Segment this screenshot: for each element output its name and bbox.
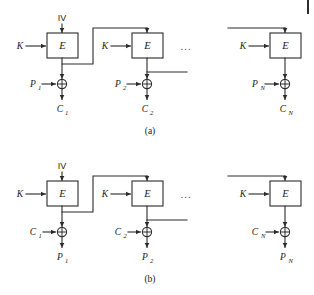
output-label-b2: P xyxy=(141,252,148,262)
panel-a-caption: (a) xyxy=(145,126,156,137)
input-label-an: P xyxy=(251,79,258,89)
ellipsis-b: ... xyxy=(180,188,191,200)
iv-label-b: IV xyxy=(58,161,67,171)
input-subscript-bn: N xyxy=(260,232,266,239)
key-label-a1: K xyxy=(16,41,24,51)
input-label-a2: P xyxy=(114,79,121,89)
input-subscript-b2: 2 xyxy=(124,232,128,239)
panel-a-stage-n: K E P N C N xyxy=(228,28,301,116)
panel-a-group: IV K E P 1 xyxy=(16,13,301,137)
cipher-label-b1: E xyxy=(58,188,66,199)
panel-a-stage-1: IV K E P 1 xyxy=(16,13,147,116)
cipher-label-b2: E xyxy=(143,188,151,199)
panel-a-stage-2: K E P 2 C 2 xyxy=(101,33,187,116)
figure-canvas: IV K E P 1 xyxy=(0,0,314,295)
panel-b-group: IV K E C 1 P 1 K xyxy=(16,161,301,285)
panel-b-stage-n: K E C N P N xyxy=(228,176,301,264)
output-subscript-b2: 2 xyxy=(150,257,154,264)
cipher-label-a2: E xyxy=(143,40,151,51)
panel-b-stage-1: IV K E C 1 P 1 xyxy=(16,161,147,264)
key-label-bn: K xyxy=(239,189,247,199)
input-subscript-a2: 2 xyxy=(123,84,127,91)
input-label-bn: C xyxy=(252,227,259,237)
input-label-b2: C xyxy=(115,227,122,237)
cipher-label-a1: E xyxy=(58,40,66,51)
ellipsis-a: ... xyxy=(180,40,191,52)
input-subscript-an: N xyxy=(260,84,266,91)
output-subscript-b1: 1 xyxy=(65,257,68,264)
output-label-b1: P xyxy=(56,252,63,262)
key-label-a2: K xyxy=(101,41,109,51)
output-subscript-an: N xyxy=(288,109,294,116)
output-label-a1: C xyxy=(57,104,64,114)
panel-b-caption: (b) xyxy=(144,274,155,285)
key-label-b2: K xyxy=(101,189,109,199)
input-subscript-a1: 1 xyxy=(38,84,41,91)
output-subscript-a1: 1 xyxy=(65,109,68,116)
output-subscript-bn: N xyxy=(288,257,294,264)
ofb-mode-diagram: IV K E P 1 xyxy=(0,0,314,295)
input-subscript-b1: 1 xyxy=(39,232,42,239)
output-label-an: C xyxy=(280,104,287,114)
cipher-label-bn: E xyxy=(281,188,289,199)
output-subscript-a2: 2 xyxy=(150,109,154,116)
panel-b-stage-2: K E C 2 P 2 xyxy=(101,181,187,264)
cipher-label-an: E xyxy=(281,40,289,51)
key-label-an: K xyxy=(239,41,247,51)
input-label-b1: C xyxy=(30,227,37,237)
input-label-a1: P xyxy=(29,79,36,89)
output-label-bn: P xyxy=(279,252,286,262)
output-label-a2: C xyxy=(142,104,149,114)
key-label-b1: K xyxy=(16,189,24,199)
iv-label-a: IV xyxy=(58,13,67,23)
